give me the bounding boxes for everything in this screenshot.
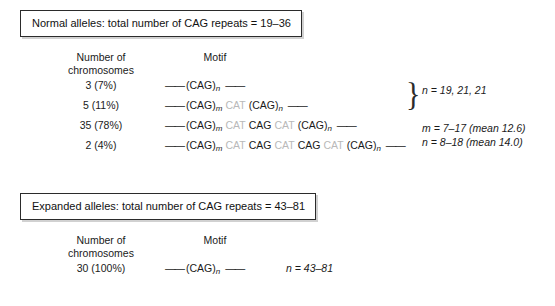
- header-motif: Motif: [160, 234, 270, 247]
- flanking-dash: ——: [163, 119, 186, 131]
- motif-cell: ——(CAG)n——: [163, 262, 246, 278]
- chromosome-count-cell: 3 (7%): [46, 79, 156, 92]
- motif-token-cag: (CAG)m: [186, 99, 225, 111]
- annotation-m-range: m = 7–17 (mean 12.6): [422, 122, 526, 134]
- header-chrom-line1: Number of: [76, 51, 125, 63]
- motif-token-cat: CAT: [225, 139, 248, 151]
- motif-cell: ——(CAG)mCATCAGCAT(CAG)n——: [163, 119, 358, 135]
- motif-token-cag: (CAG)n: [186, 262, 223, 274]
- motif-subscript: m: [216, 144, 223, 153]
- motif-subscript: m: [216, 124, 223, 133]
- motif-token-cag: CAG: [249, 139, 275, 151]
- header-chrom-line2: chromosomes: [68, 247, 134, 259]
- expanded-alleles-title-box: Expanded alleles: total number of CAG re…: [20, 193, 316, 220]
- grouping-brace: }: [406, 76, 420, 111]
- motif-token-cat: CAT: [274, 119, 297, 131]
- cropped-caption-strip: [6, 298, 336, 306]
- flanking-dash: ——: [163, 79, 186, 91]
- motif-token-cag: (CAG)n: [298, 119, 335, 131]
- motif-token-cat: CAT: [225, 119, 248, 131]
- motif-subscript: n: [216, 84, 220, 93]
- flanking-dash: ——: [223, 79, 246, 91]
- motif-token-cat: CAT: [323, 139, 346, 151]
- allele-row: 30 (100%)——(CAG)n——n = 43–81: [0, 262, 555, 282]
- chromosome-count-cell: 30 (100%): [46, 262, 156, 275]
- flanking-dash: ——: [163, 139, 186, 151]
- annotation-n-values-text: n = 19, 21, 21: [422, 84, 487, 96]
- motif-subscript: n: [327, 124, 331, 133]
- header-motif: Motif: [160, 51, 270, 64]
- motif-token-cag: CAG: [249, 119, 275, 131]
- chromosome-count-cell: 35 (78%): [46, 119, 156, 132]
- annotation-n-range: n = 8–18 (mean 14.0): [422, 136, 523, 148]
- annotation-mean-ranges: m = 7–17 (mean 12.6) n = 8–18 (mean 14.0…: [422, 122, 526, 149]
- motif-cell: ——(CAG)n——: [163, 79, 246, 95]
- header-chrom-line1: Number of: [76, 234, 125, 246]
- motif-cell: ——(CAG)mCATCAGCATCAGCAT(CAG)n——: [163, 139, 407, 155]
- annotation-n-range: n = 43–81: [286, 262, 333, 275]
- flanking-dash: ——: [335, 119, 358, 131]
- normal-column-headers: Number of chromosomes Motif: [0, 51, 555, 77]
- motif-subscript: n: [216, 267, 220, 276]
- allele-row: 5 (11%)——(CAG)mCAT(CAG)n——: [0, 99, 555, 119]
- motif-token-cag: (CAG)n: [186, 79, 223, 91]
- chromosome-count-cell: 2 (4%): [46, 139, 156, 152]
- motif-token-cag: (CAG)m: [186, 119, 225, 131]
- flanking-dash: ——: [163, 99, 186, 111]
- flanking-dash: ——: [223, 262, 246, 274]
- normal-alleles-title-box: Normal alleles: total number of CAG repe…: [20, 10, 302, 37]
- motif-token-cag: CAG: [298, 139, 324, 151]
- expanded-column-headers: Number of chromosomes Motif: [0, 234, 555, 260]
- expanded-allele-rows: 30 (100%)——(CAG)n——n = 43–81: [0, 262, 555, 282]
- motif-token-cat: CAT: [274, 139, 297, 151]
- header-number-of-chromosomes: Number of chromosomes: [46, 234, 156, 259]
- motif-subscript: n: [376, 144, 380, 153]
- motif-token-cag: (CAG)n: [347, 139, 384, 151]
- flanking-dash: ——: [163, 262, 186, 274]
- annotation-n-values: n = 19, 21, 21: [422, 84, 487, 97]
- flanking-dash: ——: [384, 139, 407, 151]
- header-chrom-line2: chromosomes: [68, 64, 134, 76]
- motif-cell: ——(CAG)mCAT(CAG)n——: [163, 99, 309, 115]
- chromosome-count-cell: 5 (11%): [46, 99, 156, 112]
- motif-token-cat: CAT: [225, 99, 248, 111]
- motif-subscript: m: [216, 104, 223, 113]
- motif-subscript: n: [278, 104, 282, 113]
- motif-token-cag: (CAG)m: [186, 139, 225, 151]
- motif-token-cag: (CAG)n: [249, 99, 286, 111]
- header-number-of-chromosomes: Number of chromosomes: [46, 51, 156, 76]
- flanking-dash: ——: [286, 99, 309, 111]
